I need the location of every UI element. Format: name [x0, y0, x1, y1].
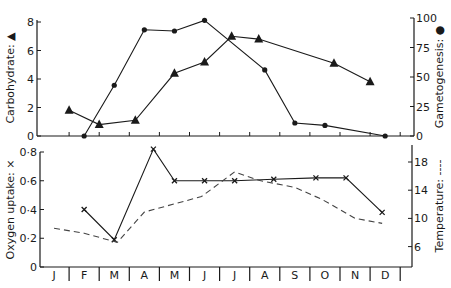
dot-marker [82, 133, 87, 138]
upper-panel: 024680255075100Carbohydrate: ▲Gametogene… [4, 12, 446, 143]
x-marker [151, 147, 156, 152]
left-axis-title: Oxygen uptake: × [4, 159, 17, 259]
month-label: M [110, 269, 120, 282]
left-tick-label: 0 [30, 261, 37, 274]
month-label: O [321, 269, 330, 282]
dot-marker [172, 28, 177, 33]
right-tick-label: 50 [416, 71, 430, 84]
lower-panel: 00·20·40·60·86101418Oxygen uptake: ×Temp… [4, 145, 446, 282]
right-tick-label: 100 [416, 12, 437, 25]
left-tick-label: 0 [27, 130, 34, 143]
left-tick-label: 0·4 [20, 204, 38, 217]
month-label: J [202, 269, 206, 282]
right-tick-label: 18 [414, 156, 428, 169]
left-tick-label: 0·6 [20, 175, 38, 188]
right-tick-label: 6 [414, 241, 421, 254]
series-oxygen-uptake-line [84, 149, 382, 240]
left-axis-title: Carbohydrate: ▲ [4, 32, 17, 124]
right-tick-label: 25 [416, 101, 430, 114]
dot-marker [142, 27, 147, 32]
right-axis-title: Gametogenesis: ● [433, 26, 446, 129]
right-tick-label: 10 [414, 212, 428, 225]
month-label: F [81, 269, 87, 282]
month-label: J [51, 269, 55, 282]
dot-marker [202, 18, 207, 23]
right-tick-label: 0 [416, 130, 423, 143]
x-marker [82, 207, 87, 212]
left-tick-label: 6 [27, 45, 34, 58]
month-label: N [351, 269, 359, 282]
triangle-marker [366, 77, 375, 86]
x-marker [380, 210, 385, 215]
left-tick-label: 4 [27, 73, 34, 86]
dot-marker [292, 120, 297, 125]
dot-marker [112, 83, 117, 88]
dot-marker [322, 123, 327, 128]
dot-marker [383, 133, 388, 138]
left-tick-label: 8 [27, 16, 34, 29]
month-label: A [261, 269, 269, 282]
left-tick-label: 0·2 [20, 232, 38, 245]
gametogenesis-chart: 024680255075100Carbohydrate: ▲Gametogene… [0, 0, 451, 288]
month-label: A [141, 269, 149, 282]
month-label: D [381, 269, 389, 282]
left-tick-label: 0·8 [20, 146, 38, 159]
triangle-marker [227, 31, 236, 40]
dot-marker [262, 67, 267, 72]
month-label: M [170, 269, 180, 282]
right-tick-label: 14 [414, 184, 428, 197]
right-axis-title: Temperature: ---- [433, 160, 446, 254]
right-tick-label: 75 [416, 42, 430, 55]
series-carbohydrate-line [69, 36, 370, 124]
triangle-marker [65, 105, 74, 114]
left-tick-label: 2 [27, 102, 34, 115]
series-temperature-line [54, 172, 382, 243]
month-label: S [291, 269, 298, 282]
month-label: J [232, 269, 236, 282]
